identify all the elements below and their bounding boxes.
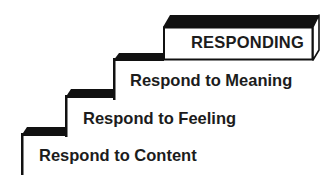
step-3-label: Respond to Meaning: [130, 72, 292, 89]
step-1-label: Respond to Content: [39, 147, 197, 164]
responding-title: RESPONDING: [191, 34, 304, 51]
step-2-label: Respond to Feeling: [83, 110, 236, 127]
